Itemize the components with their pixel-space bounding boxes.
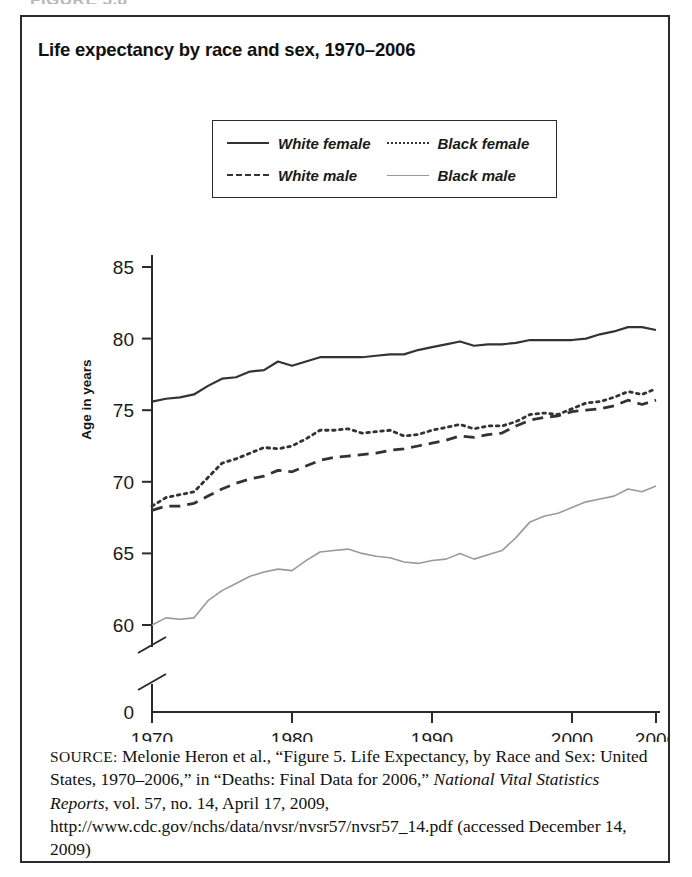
series-line-white-female (152, 327, 656, 401)
chart-legend: White female Black female White male Bla… (212, 120, 557, 198)
legend-line-light-icon (387, 175, 429, 176)
source-text-tail: , vol. 57, no. 14, April 17, 2009, http:… (50, 793, 627, 860)
chart-title: Life expectancy by race and sex, 1970–20… (38, 39, 415, 61)
chart-tick-labels: 606570758085019701980199020002006 (113, 257, 668, 742)
y-axis-title: Age in years (79, 330, 94, 470)
svg-text:65: 65 (113, 543, 134, 564)
svg-text:1980: 1980 (271, 729, 313, 742)
legend-item-white-female: White female (227, 135, 387, 152)
figure-panel: Life expectancy by race and sex, 1970–20… (20, 15, 670, 863)
line-chart-svg: 606570758085019701980199020002006 (22, 222, 668, 742)
chart-axes (138, 255, 660, 723)
legend-line-dotted-icon (387, 142, 429, 144)
legend-item-black-male: Black male (387, 167, 547, 184)
chart-plot-area: Age in years 606570758085019701980199020… (22, 222, 668, 742)
legend-label-white-female: White female (278, 135, 371, 152)
svg-text:60: 60 (113, 615, 134, 636)
legend-item-black-female: Black female (387, 135, 547, 152)
source-label: SOURCE: (50, 748, 118, 765)
legend-line-solid-icon (227, 142, 269, 144)
legend-label-black-male: Black male (438, 167, 516, 184)
chart-series-group (152, 327, 656, 625)
source-note: SOURCE: Melonie Heron et al., “Figure 5.… (50, 745, 650, 861)
svg-text:75: 75 (113, 400, 134, 421)
series-line-black-female (152, 389, 656, 506)
svg-text:0: 0 (123, 702, 134, 723)
svg-text:1970: 1970 (131, 729, 173, 742)
legend-label-white-male: White male (278, 167, 357, 184)
legend-label-black-female: Black female (438, 135, 530, 152)
svg-text:2000: 2000 (551, 729, 593, 742)
series-line-white-male (152, 400, 656, 510)
legend-item-white-male: White male (227, 167, 387, 184)
series-line-black-male (152, 486, 656, 625)
figure-header: FIGURE 5.8 (30, 0, 128, 4)
legend-line-dashed-icon (227, 174, 269, 176)
svg-text:85: 85 (113, 257, 134, 278)
svg-text:1990: 1990 (411, 729, 453, 742)
svg-text:2006: 2006 (635, 729, 668, 742)
svg-text:70: 70 (113, 472, 134, 493)
svg-text:80: 80 (113, 329, 134, 350)
